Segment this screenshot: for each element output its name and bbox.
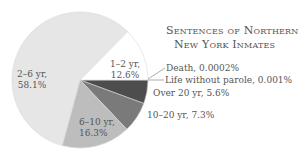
label-10-20-yr: 10–20 yr, 7.3% (147, 110, 214, 121)
label-1-2-yr: 1–2 yr, 12.6% (110, 59, 140, 81)
chart-title: Sentences of Northern New York Inmates (166, 24, 301, 52)
label-death: Death, 0.0002% (166, 63, 239, 74)
label-over-20-yr: Over 20 yr, 5.6% (153, 88, 229, 99)
label-2-6-yr: 2–6 yr, 58.1% (17, 69, 47, 91)
leader-line-death (148, 68, 165, 79)
label-life-without-parole: Life without parole, 0.001% (165, 75, 292, 86)
chart-title-line-1: Sentences of Northern (166, 24, 301, 38)
chart-title-line-2: New York Inmates (166, 38, 301, 52)
label-6-10-yr: 6–10 yr, 16.3% (79, 117, 115, 139)
leader-lines (148, 68, 165, 80)
